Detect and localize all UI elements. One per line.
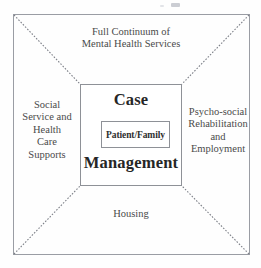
management-label: Management [81, 153, 181, 173]
region-label-right: Psycho-social Rehabilitation and Employm… [185, 106, 251, 156]
region-label-left: Social Service and Health Care Supports [16, 99, 78, 161]
patient-family-label: Patient/Family [106, 130, 165, 140]
scan-artifact [171, 3, 180, 7]
patient-family-box: Patient/Family [101, 121, 170, 148]
case-management-diagram: Full Continuum of Mental Health Services… [0, 0, 261, 268]
region-label-bottom: Housing [78, 208, 184, 220]
case-label: Case [81, 90, 181, 110]
case-management-box: Case Patient/Family Management [80, 84, 182, 186]
scan-artifact-secondary [160, 5, 164, 7]
region-label-top: Full Continuum of Mental Health Services [53, 26, 209, 51]
